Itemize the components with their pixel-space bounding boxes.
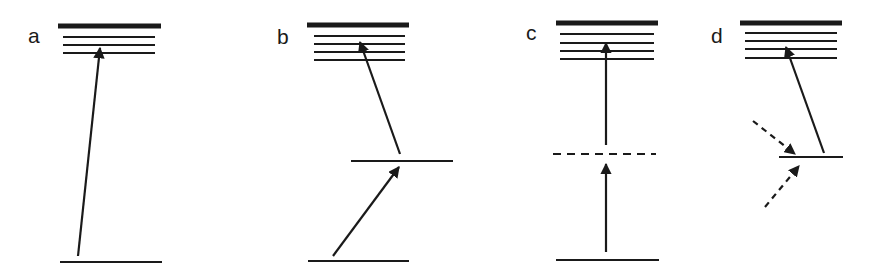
transition-arrow-icon bbox=[333, 167, 399, 256]
energy-level-diagram: a b c d bbox=[0, 0, 874, 273]
panel-d bbox=[740, 23, 843, 207]
panel-label-d: d bbox=[711, 24, 723, 47]
transition-arrow-icon bbox=[78, 48, 100, 256]
dashed-transition-arrow-icon bbox=[765, 166, 799, 207]
panel-label-a: a bbox=[28, 24, 40, 47]
transition-arrow-icon bbox=[786, 47, 824, 153]
dashed-transition-arrow-icon bbox=[753, 121, 795, 154]
panel-label-c: c bbox=[526, 21, 537, 44]
transition-arrow-icon bbox=[360, 42, 400, 154]
panel-c bbox=[553, 23, 659, 260]
panel-b bbox=[307, 25, 453, 261]
panel-a bbox=[58, 26, 162, 262]
panel-label-b: b bbox=[277, 25, 289, 48]
panels-group bbox=[58, 23, 843, 262]
